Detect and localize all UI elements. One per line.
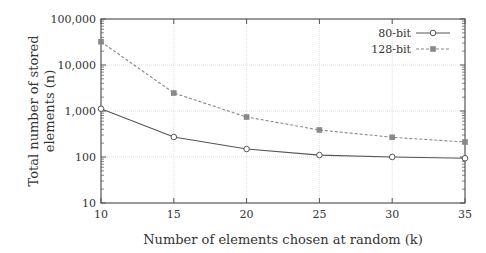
- series-80-bit: [98, 106, 468, 161]
- legend-label: 80-bit: [378, 27, 411, 40]
- data-point-circle: [98, 106, 104, 112]
- data-point-square: [244, 114, 250, 120]
- data-point-circle: [244, 146, 250, 152]
- x-tick-label: 35: [458, 208, 472, 221]
- y-tick-label: 10,000: [58, 59, 97, 72]
- series-line: [101, 109, 465, 159]
- data-point-circle: [389, 154, 395, 160]
- data-point-circle: [462, 155, 468, 161]
- data-point-square: [171, 90, 177, 96]
- data-point-square: [98, 39, 104, 45]
- x-tick-label: 15: [167, 208, 181, 221]
- y-tick-label: 100,000: [51, 13, 97, 26]
- legend: 80-bit128-bit: [371, 27, 450, 56]
- x-axis-title: Number of elements chosen at random (k): [143, 232, 423, 247]
- series-group: [98, 39, 468, 161]
- data-point-square: [317, 127, 323, 133]
- data-point-circle: [430, 30, 436, 36]
- series-line: [101, 42, 465, 142]
- x-tick-label: 25: [312, 208, 326, 221]
- legend-label: 128-bit: [371, 43, 411, 56]
- y-axis-title-line-1: Total number of stored: [26, 36, 41, 187]
- line-chart: 101001,00010,000100,000 101520253035 80-…: [0, 0, 486, 253]
- x-axis-ticks: 101520253035: [94, 19, 472, 221]
- x-tick-label: 30: [385, 208, 399, 221]
- data-point-square: [389, 135, 395, 141]
- y-tick-label: 1,000: [65, 105, 97, 118]
- x-tick-label: 20: [240, 208, 254, 221]
- data-point-square: [430, 46, 436, 52]
- data-point-circle: [317, 152, 323, 158]
- data-point-square: [462, 139, 468, 145]
- y-tick-label: 100: [75, 151, 96, 164]
- x-tick-label: 10: [94, 208, 108, 221]
- y-axis-title-line-2: elements (n): [42, 70, 57, 152]
- y-axis-title: Total number of stored elements (n): [26, 36, 57, 187]
- data-point-circle: [171, 134, 177, 140]
